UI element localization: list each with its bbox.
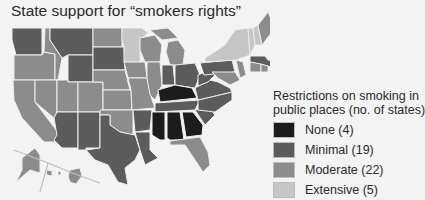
state-nm [78,112,100,150]
state-co [78,82,103,112]
state-nd [93,28,122,47]
state-sd [93,47,125,70]
inset-divider-2 [40,163,48,192]
state-ak [16,148,40,182]
state-ia [124,62,147,78]
state-az [54,112,78,148]
state-ky [158,85,197,102]
legend-title-line2: public places (no. of states) [273,103,425,117]
swatch-minimal [273,142,295,158]
legend-label: Minimal (19) [305,143,374,157]
state-ri [261,64,268,72]
state-ct [250,62,261,72]
state-hi-2 [58,171,61,175]
swatch-none [273,122,295,138]
state-ms [152,112,165,140]
legend-title-line1: Restrictions on smoking in [273,89,425,103]
state-al [167,112,184,140]
legend-item-moderate: Moderate (22) [273,160,425,180]
us-states-map [0,0,270,198]
state-ar [133,110,152,132]
legend-item-extensive: Extensive (5) [273,180,425,200]
legend-item-minimal: Minimal (19) [273,140,425,160]
legend: Restrictions on smoking in public places… [273,89,425,200]
state-ks [103,90,132,110]
state-wy [68,55,93,82]
state-wi [140,35,162,62]
swatch-moderate [273,162,295,178]
state-hi-1 [46,170,52,176]
legend-label: Extensive (5) [305,183,378,197]
state-in [162,65,175,85]
legend-label: None (4) [305,123,354,137]
state-fl [170,137,210,172]
state-or [14,52,55,80]
legend-item-none: None (4) [273,120,425,140]
legend-label: Moderate (22) [305,163,384,177]
state-ny [205,28,250,62]
swatch-extensive [273,182,295,198]
state-ut [57,80,78,112]
state-wa [12,28,42,55]
state-oh [175,63,200,88]
